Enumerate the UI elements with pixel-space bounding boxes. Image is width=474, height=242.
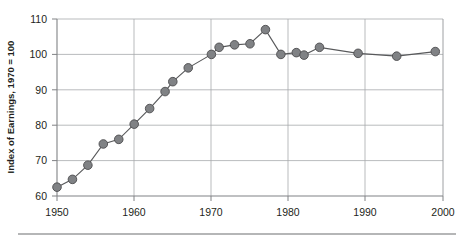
x-tick-label-1950: 1950 <box>45 206 69 218</box>
data-point <box>53 183 62 192</box>
data-point <box>84 161 93 170</box>
data-point <box>99 140 108 149</box>
series-markers-earnings <box>53 25 440 191</box>
data-point <box>300 51 309 60</box>
chart-figure: Index of Earnings, 1970 = 100 <box>0 0 474 242</box>
data-point <box>392 52 401 61</box>
y-tick-label-80: 80 <box>35 119 47 131</box>
x-tick-labels: 1950 1960 1970 1980 1990 2000 <box>45 206 455 218</box>
x-tick-label-1960: 1960 <box>122 206 146 218</box>
y-tick-label-60: 60 <box>35 190 47 202</box>
y-tick-label-110: 110 <box>30 13 47 25</box>
data-point <box>246 39 255 48</box>
y-tick-label-90: 90 <box>35 84 47 96</box>
vertical-gridlines <box>134 19 443 196</box>
data-point <box>215 43 224 52</box>
data-point <box>207 50 216 59</box>
y-axis-title: Index of Earnings, 1970 = 100 <box>5 41 16 174</box>
y-tick-marks <box>52 19 57 196</box>
y-axis-title-text: Index of Earnings, 1970 = 100 <box>5 41 16 174</box>
x-tick-marks <box>57 196 443 201</box>
data-point <box>230 41 239 50</box>
line-chart-svg: Index of Earnings, 1970 = 100 <box>0 0 474 242</box>
x-tick-label-1990: 1990 <box>353 206 377 218</box>
data-point <box>315 43 324 52</box>
data-point <box>261 25 270 34</box>
data-point <box>161 87 170 96</box>
series-line-earnings <box>57 30 435 188</box>
y-tick-label-70: 70 <box>35 154 47 166</box>
y-tick-labels: 110 100 90 80 70 60 <box>29 13 47 202</box>
x-tick-label-2000: 2000 <box>431 206 455 218</box>
x-tick-label-1970: 1970 <box>199 206 223 218</box>
data-point <box>431 47 440 56</box>
data-point <box>114 135 123 144</box>
data-point <box>277 50 286 59</box>
data-point <box>354 49 363 58</box>
y-tick-label-100: 100 <box>29 48 47 60</box>
data-point <box>68 175 77 184</box>
data-point <box>169 77 178 86</box>
data-point <box>184 64 193 73</box>
x-tick-label-1980: 1980 <box>276 206 300 218</box>
data-point <box>145 104 154 113</box>
data-point <box>130 120 139 129</box>
